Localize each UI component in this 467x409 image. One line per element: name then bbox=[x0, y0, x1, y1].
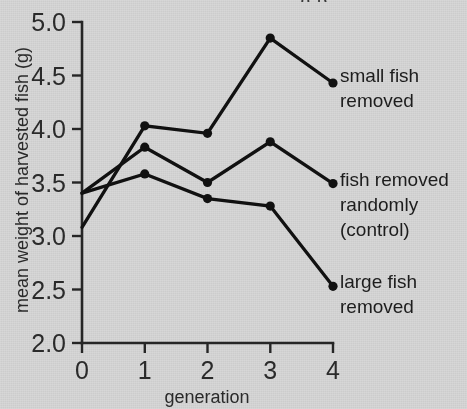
y-tick-label-3.5: 3.5 bbox=[31, 169, 66, 197]
series-label-small-fish-line2: removed bbox=[340, 90, 414, 111]
y-tick-label-4.0: 4.0 bbox=[31, 115, 66, 143]
y-axis-title: mean weight of harvested fish (g) bbox=[12, 47, 32, 313]
series-label-large-fish-line2: removed bbox=[340, 296, 414, 317]
data-point-marker bbox=[266, 137, 275, 146]
series-large-fish-removed bbox=[82, 169, 338, 291]
x-tick-label-1: 1 bbox=[138, 356, 152, 384]
data-point-marker bbox=[328, 78, 337, 87]
x-tick-labels: 0 1 2 3 4 bbox=[75, 356, 340, 384]
data-series-layer bbox=[82, 33, 338, 290]
series-label-control-line1: fish removed bbox=[340, 169, 449, 190]
series-fish-removed-randomly-control- bbox=[82, 137, 338, 193]
data-point-marker bbox=[266, 201, 275, 210]
data-point-marker bbox=[140, 169, 149, 178]
series-label-large-fish-line1: large fish bbox=[340, 271, 417, 292]
series-line bbox=[82, 174, 333, 286]
line-chart-figure: g p 5.0 4.5 4.0 3.5 3.0 bbox=[0, 0, 467, 409]
y-tick-labels: 5.0 4.5 4.0 3.5 3.0 2.5 2.0 bbox=[31, 8, 66, 357]
data-point-marker bbox=[140, 121, 149, 130]
series-label-large-fish: large fish removed bbox=[340, 271, 417, 317]
x-axis bbox=[82, 343, 333, 353]
series-label-small-fish: small fish removed bbox=[340, 65, 419, 111]
x-tick-label-2: 2 bbox=[201, 356, 215, 384]
y-tick-label-2.0: 2.0 bbox=[31, 329, 66, 357]
y-axis bbox=[72, 22, 82, 343]
y-tick-label-5.0: 5.0 bbox=[31, 8, 66, 36]
series-label-small-fish-line1: small fish bbox=[340, 65, 419, 86]
y-tick-label-2.5: 2.5 bbox=[31, 276, 66, 304]
data-point-marker bbox=[203, 194, 212, 203]
chart-svg: 5.0 4.5 4.0 3.5 3.0 2.5 2.0 0 1 2 3 4 ge… bbox=[0, 0, 467, 409]
y-tick-label-3.0: 3.0 bbox=[31, 222, 66, 250]
x-axis-title: generation bbox=[164, 387, 249, 407]
data-point-marker bbox=[203, 178, 212, 187]
cropped-header-text: g p bbox=[300, 0, 328, 2]
x-tick-label-3: 3 bbox=[263, 356, 277, 384]
series-label-control-line3: (control) bbox=[340, 219, 410, 240]
x-tick-label-4: 4 bbox=[326, 356, 340, 384]
y-tick-label-4.5: 4.5 bbox=[31, 62, 66, 90]
data-point-marker bbox=[140, 143, 149, 152]
series-label-control-line2: randomly bbox=[340, 194, 419, 215]
data-point-marker bbox=[266, 33, 275, 42]
data-point-marker bbox=[203, 129, 212, 138]
data-point-marker bbox=[328, 179, 337, 188]
x-tick-label-0: 0 bbox=[75, 356, 89, 384]
data-point-marker bbox=[328, 282, 337, 291]
series-label-control: fish removed randomly (control) bbox=[340, 169, 449, 240]
